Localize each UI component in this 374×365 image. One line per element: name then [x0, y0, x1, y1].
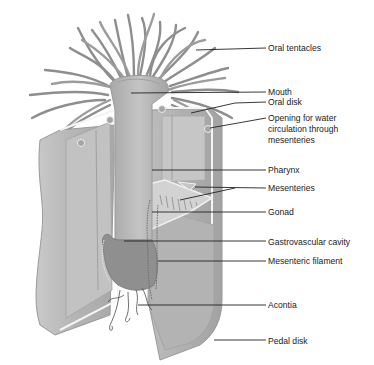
body-wall-left	[36, 110, 118, 335]
label-oral-disk: Oral disk	[268, 97, 302, 107]
label-gastrovascular-cavity: Gastrovascular cavity	[268, 237, 350, 247]
label-mesenteric-filament: Mesenteric filament	[268, 256, 343, 266]
label-gonad: Gonad	[268, 207, 294, 217]
label-mouth: Mouth	[268, 87, 292, 97]
leader-oral-tentacles	[196, 48, 266, 50]
label-oral-tentacles: Oral tentacles	[268, 43, 321, 53]
label-pharynx: Pharynx	[268, 165, 300, 175]
body-wall-right	[148, 106, 222, 361]
label-pedal-disk: Pedal disk	[268, 336, 308, 346]
label-opening-water-line3: mesenteries	[268, 135, 315, 145]
acontia-illustration	[108, 288, 152, 330]
label-opening-water-line2: circulation through	[268, 124, 338, 134]
sea-anemone-diagram	[0, 0, 374, 365]
label-opening-water-line1: Opening for water	[268, 113, 336, 123]
label-acontia: Acontia	[268, 300, 297, 310]
label-mesenteries: Mesenteries	[268, 183, 315, 193]
